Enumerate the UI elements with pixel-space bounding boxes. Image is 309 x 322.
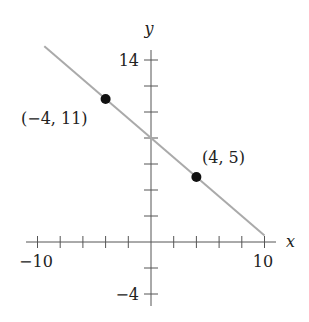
chart: y x −10 10 14 −4 (−4, 11) (4, 5)	[0, 0, 309, 322]
point-4-5	[191, 172, 201, 182]
line-series	[44, 46, 264, 235]
x-axis-label: x	[286, 232, 295, 251]
x-max-label: 10	[253, 252, 273, 271]
point1-label: (−4, 11)	[21, 109, 88, 128]
y-max-label: 14	[119, 51, 139, 70]
x-min-label: −10	[19, 252, 53, 271]
point2-label: (4, 5)	[202, 148, 245, 167]
y-axis-label: y	[143, 19, 154, 38]
y-min-label: −4	[115, 285, 139, 304]
point-neg4-11	[101, 94, 111, 104]
